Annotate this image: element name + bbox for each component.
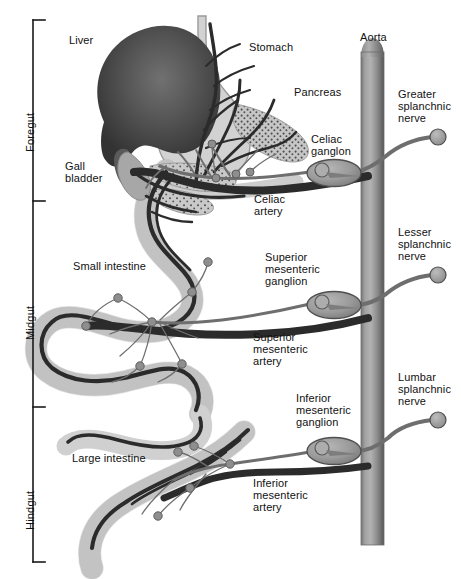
label-gall-bladder-line2: bladder — [65, 172, 102, 185]
enteric-node — [232, 170, 240, 178]
label-inferior-mesenteric-artery-line1: Inferior — [253, 477, 288, 490]
enteric-node — [178, 360, 186, 368]
label-greater-splanchnic-nerve-line2: splanchnic — [398, 100, 451, 113]
enteric-node — [114, 294, 122, 302]
label-large-intestine: Large intestine — [72, 452, 146, 465]
region-bracket — [33, 20, 45, 562]
label-celiac-ganglion-line2: ganglon — [311, 145, 351, 158]
celiac-ganglion-shape — [307, 160, 361, 187]
enteric-node — [226, 460, 234, 468]
label-small-intestine: Small intestine — [73, 260, 146, 273]
label-lesser-splanchnic-nerve-line3: nerve — [398, 250, 426, 263]
label-gall-bladder-line1: Gall — [65, 160, 85, 173]
label-superior-mesenteric-artery-line1: Superior — [253, 331, 295, 344]
label-inferior-mesenteric-ganglion-line2: mesenteric — [296, 404, 351, 417]
label-superior-mesenteric-ganglion-line1: Superior — [265, 251, 307, 264]
label-superior-mesenteric-ganglion-line2: mesenteric — [265, 263, 320, 276]
superior-mesenteric-ganglion-shape — [307, 292, 361, 319]
greater-splanchnic-terminal — [430, 129, 446, 145]
lumbar-splanchnic-terminal — [430, 412, 446, 428]
label-inferior-mesenteric-artery-line2: mesenteric — [253, 489, 308, 502]
enteric-node — [136, 362, 144, 370]
label-celiac-artery-line1: Celiac — [254, 193, 285, 206]
enteric-node — [204, 258, 212, 266]
label-superior-mesenteric-artery-line2: mesenteric — [253, 343, 308, 356]
enteric-node — [82, 322, 90, 330]
label-aorta: Aorta — [360, 31, 387, 44]
enteric-node — [174, 448, 182, 456]
enteric-node — [188, 288, 196, 296]
label-superior-mesenteric-artery-line3: artery — [253, 355, 282, 368]
label-lesser-splanchnic-nerve-line1: Lesser — [398, 226, 432, 239]
inferior-mesenteric-ganglion-shape — [307, 438, 361, 465]
label-celiac-ganglion-line1: Celiac — [311, 133, 342, 146]
label-inferior-mesenteric-artery-line3: artery — [253, 501, 282, 514]
enteric-node — [190, 442, 198, 450]
label-inferior-mesenteric-ganglion-line3: ganglion — [296, 416, 338, 429]
enteric-node — [212, 174, 220, 182]
enteric-node — [208, 140, 216, 148]
lesser-splanchnic-terminal — [430, 267, 446, 283]
label-lumbar-splanchnic-nerve-line1: Lumbar — [398, 371, 436, 384]
label-liver: Liver — [69, 34, 93, 47]
region-label-midgut: Midgut — [24, 306, 36, 340]
label-stomach: Stomach — [249, 41, 293, 54]
label-greater-splanchnic-nerve-line1: Greater — [398, 88, 436, 101]
label-celiac-artery-line2: artery — [254, 205, 283, 218]
label-pancreas: Pancreas — [294, 86, 341, 99]
label-inferior-mesenteric-ganglion-line1: Inferior — [296, 392, 331, 405]
anatomy-figure: Foregut Midgut Hindgut Liver Gall bladde… — [0, 0, 461, 579]
enteric-node — [154, 512, 162, 520]
label-lumbar-splanchnic-nerve-line2: splanchnic — [398, 383, 451, 396]
region-label-foregut: Foregut — [24, 113, 36, 152]
enteric-node — [186, 484, 194, 492]
label-lumbar-splanchnic-nerve-line3: nerve — [398, 395, 426, 408]
label-greater-splanchnic-nerve-line3: nerve — [398, 112, 426, 125]
label-superior-mesenteric-ganglion-line3: ganglion — [265, 275, 307, 288]
enteric-node — [148, 318, 156, 326]
anatomy-illustration — [0, 0, 461, 579]
label-lesser-splanchnic-nerve-line2: splanchnic — [398, 238, 451, 251]
gall-bladder-organ — [118, 152, 151, 200]
region-label-hindgut: Hindgut — [24, 491, 36, 530]
enteric-node — [246, 168, 254, 176]
